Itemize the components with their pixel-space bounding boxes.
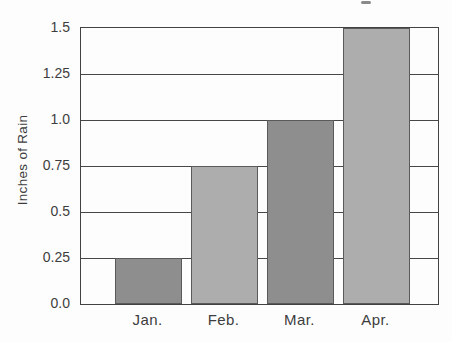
x-axis-label: Feb. (189, 311, 259, 328)
bar-chart-figure: Inches of Rain 0.00.250.50.751.01.251.5 … (0, 0, 452, 342)
bar-feb (191, 166, 258, 304)
y-tick-label: 0.75 (24, 156, 70, 174)
y-tick-label: 1.0 (24, 110, 70, 128)
bar-apr (343, 28, 410, 304)
x-axis-label: Jan. (113, 311, 183, 328)
y-tick-label: 0.25 (24, 248, 70, 266)
plot-area (80, 27, 439, 305)
y-tick-label: 0.0 (24, 294, 70, 312)
y-tick-label: 0.5 (24, 202, 70, 220)
y-tick-label: 1.25 (24, 64, 70, 82)
x-axis-label: Mar. (265, 311, 335, 328)
x-axis-label: Apr. (341, 311, 411, 328)
bar-mar (267, 120, 334, 304)
y-tick-label: 1.5 (24, 18, 70, 36)
cropped-title-fragment (361, 1, 371, 4)
bar-jan (115, 258, 182, 304)
